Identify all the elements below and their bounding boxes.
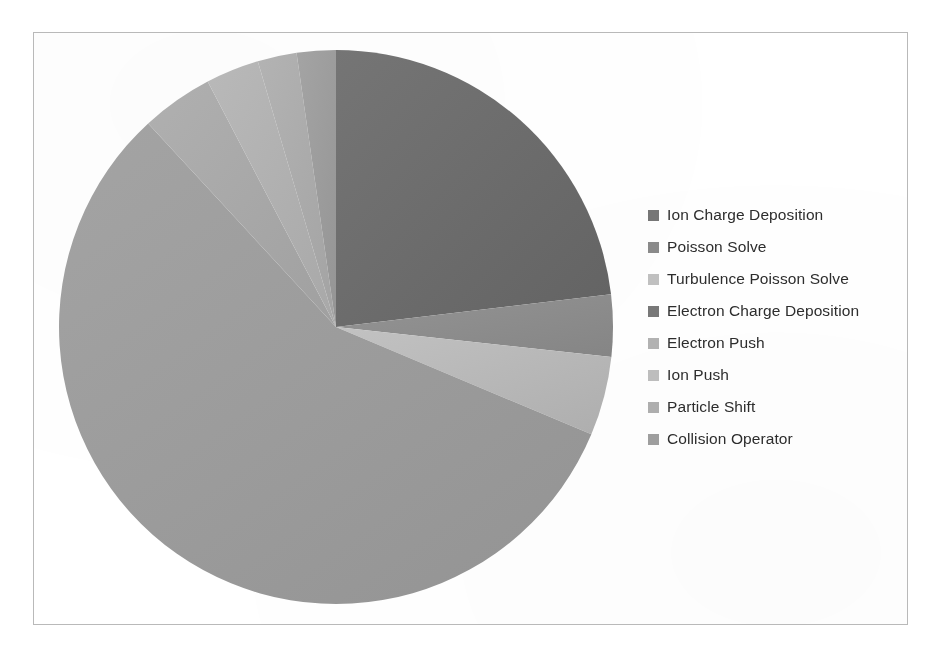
legend-swatch-icon bbox=[648, 306, 659, 317]
legend-item[interactable]: Electron Push bbox=[648, 327, 916, 359]
legend-swatch-icon bbox=[648, 402, 659, 413]
legend-item-label: Ion Charge Deposition bbox=[667, 199, 823, 231]
legend-item[interactable]: Electron Charge Deposition bbox=[648, 295, 916, 327]
legend-swatch-icon bbox=[648, 210, 659, 221]
pie-slices-group bbox=[59, 50, 613, 604]
pie-slice[interactable] bbox=[336, 50, 611, 327]
legend-swatch-icon bbox=[648, 338, 659, 349]
chart-legend: Ion Charge DepositionPoisson SolveTurbul… bbox=[648, 199, 916, 455]
legend-item[interactable]: Ion Push bbox=[648, 359, 916, 391]
legend-item-label: Particle Shift bbox=[667, 391, 755, 423]
legend-item[interactable]: Poisson Solve bbox=[648, 231, 916, 263]
legend-item[interactable]: Particle Shift bbox=[648, 391, 916, 423]
legend-item-label: Ion Push bbox=[667, 359, 729, 391]
legend-item-label: Electron Charge Deposition bbox=[667, 295, 859, 327]
legend-item-label: Collision Operator bbox=[667, 423, 793, 455]
legend-item[interactable]: Turbulence Poisson Solve bbox=[648, 263, 916, 295]
legend-swatch-icon bbox=[648, 242, 659, 253]
legend-swatch-icon bbox=[648, 434, 659, 445]
legend-item-label: Turbulence Poisson Solve bbox=[667, 263, 849, 295]
legend-item[interactable]: Collision Operator bbox=[648, 423, 916, 455]
legend-swatch-icon bbox=[648, 274, 659, 285]
legend-swatch-icon bbox=[648, 370, 659, 381]
legend-item-label: Electron Push bbox=[667, 327, 765, 359]
legend-item[interactable]: Ion Charge Deposition bbox=[648, 199, 916, 231]
legend-item-label: Poisson Solve bbox=[667, 231, 767, 263]
